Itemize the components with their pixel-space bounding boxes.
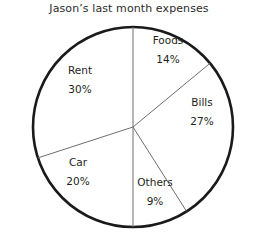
pie-chart xyxy=(0,0,258,243)
